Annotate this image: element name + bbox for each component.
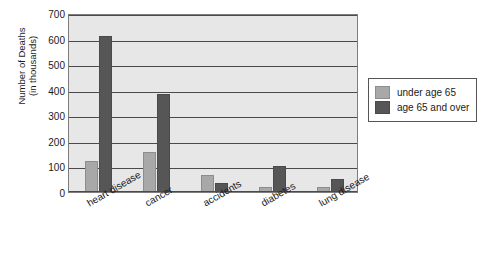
y-axis-tick-label: 200 xyxy=(37,136,65,147)
y-axis-tick-label: 500 xyxy=(37,60,65,71)
legend-label-under-65: under age 65 xyxy=(397,87,456,98)
y-axis-tick-label: 300 xyxy=(37,111,65,122)
legend-swatch-icon-65-and-over xyxy=(375,101,390,114)
bars-layer xyxy=(69,15,357,192)
y-axis-title-line-1: Number of Deaths xyxy=(16,27,27,104)
y-axis-tick-label: 600 xyxy=(37,34,65,45)
bar xyxy=(99,36,112,192)
legend-swatch-icon-under-65 xyxy=(375,86,390,99)
bar xyxy=(143,152,156,192)
y-axis-tick-label: 0 xyxy=(37,188,65,199)
bar xyxy=(85,161,98,192)
y-axis-tick-label: 700 xyxy=(37,9,65,20)
y-axis-tick-label: 100 xyxy=(37,162,65,173)
bar-group xyxy=(69,36,127,192)
plot-area xyxy=(68,14,358,193)
bar-chart: Number of Deaths (in thousands) 01002003… xyxy=(0,0,499,262)
bar xyxy=(157,94,170,192)
bar xyxy=(201,175,214,192)
y-axis-tick-label: 400 xyxy=(37,85,65,96)
legend-item-65-and-over: age 65 and over xyxy=(375,101,469,114)
legend-label-65-and-over: age 65 and over xyxy=(397,102,469,113)
legend: under age 65 age 65 and over xyxy=(368,78,477,122)
legend-item-under-65: under age 65 xyxy=(375,86,469,99)
